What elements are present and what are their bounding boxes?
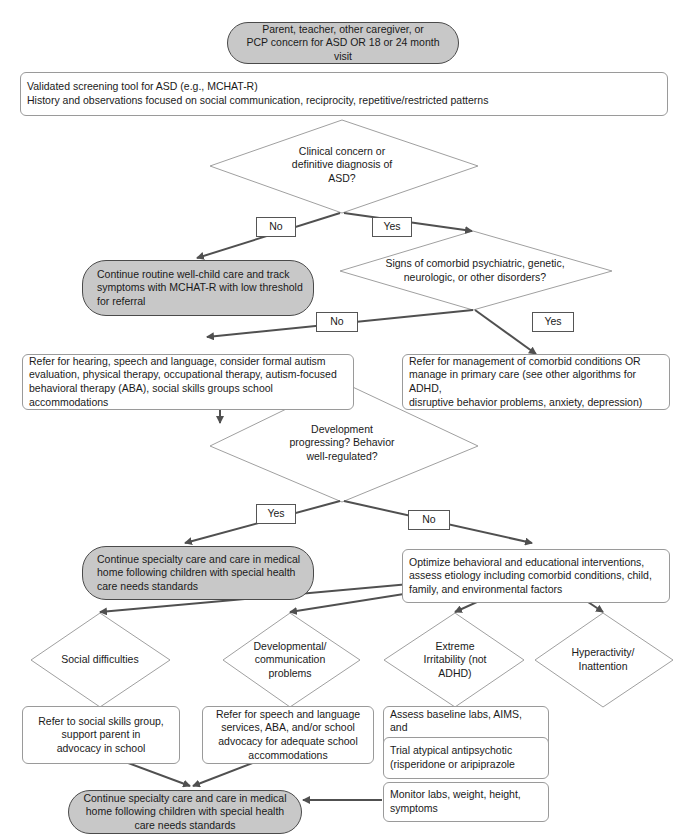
routine-care-terminal: Continue routine well-child care and tra… (82, 260, 314, 316)
branch-social-text: Social difficulties (45, 648, 155, 672)
autism-care-flowchart: Parent, teacher, other caregiver, or PCP… (0, 0, 683, 834)
refer-comorbid-box: Refer for management of comorbid conditi… (402, 354, 670, 410)
irritability-action-trial-box: Trial atypical antipsychotic (risperidon… (383, 737, 549, 779)
decision-development-text: Development progressing? Behavior well-r… (275, 418, 409, 468)
branch-hyperactivity-text: Hyperactivity/ Inattention (553, 644, 653, 676)
decision-comorbid-yes-label: Yes (532, 312, 574, 332)
branch-irritability-text: Extreme Irritability (not ADHD) (405, 636, 505, 684)
specialty-care-terminal-2: Continue specialty care and care in medi… (68, 790, 302, 834)
refer-hearing-box: Refer for hearing, speech and language, … (22, 354, 354, 410)
decision-development-yes-label: Yes (256, 504, 296, 524)
optimize-box: Optimize behavioral and educational inte… (402, 549, 670, 603)
decision-comorbid-no-label: No (316, 312, 358, 332)
specialty-care-terminal-1: Continue specialty care and care in medi… (82, 546, 314, 600)
decision-asd-yes-label: Yes (372, 217, 412, 237)
branch-developmental-text: Developmental/ communication problems (240, 636, 340, 684)
start-terminal: Parent, teacher, other caregiver, or PCP… (227, 22, 459, 64)
decision-asd-text: Clinical concern or definitive diagnosis… (270, 138, 414, 192)
decision-comorbid-text: Signs of comorbid psychiatric, genetic, … (375, 255, 575, 287)
social-action-box: Refer to social skills group, support pa… (22, 706, 180, 764)
irritability-action-monitor-box: Monitor labs, weight, height, symptoms (383, 782, 549, 822)
decision-development-no-label: No (408, 510, 450, 530)
decision-asd-no-label: No (256, 217, 296, 237)
screening-box: Validated screening tool for ASD (e.g., … (20, 72, 668, 116)
developmental-action-box: Refer for speech and language services, … (202, 706, 374, 764)
